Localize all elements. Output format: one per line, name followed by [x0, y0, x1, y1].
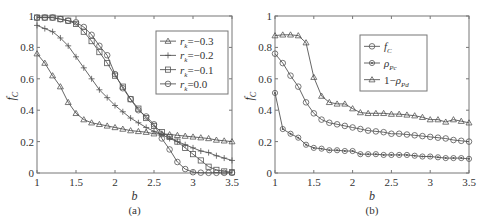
y-tick-label: 0.4 [258, 104, 272, 116]
plus-marker [81, 65, 87, 71]
dot-marker [390, 154, 392, 156]
dot-marker [344, 150, 346, 152]
x-tick-label: 3.5 [225, 176, 239, 188]
dot-marker [445, 157, 447, 159]
x-tick-label: 2 [112, 176, 118, 188]
dot-marker [398, 154, 400, 156]
x-tick-label: 3 [190, 176, 196, 188]
x-tick-label: 3.5 [462, 176, 476, 188]
y-tick-label: 0.8 [20, 41, 34, 53]
x-axis-label: b [132, 189, 138, 203]
dot-marker [290, 133, 292, 135]
y-tick-label: 0.6 [20, 73, 34, 85]
plus-marker [42, 26, 48, 32]
dot-marker [336, 149, 338, 151]
x-tick-label: 2 [350, 176, 356, 188]
plus-marker [229, 157, 235, 163]
y-tick-label: 1 [267, 10, 273, 22]
x-tick-label: 1.5 [69, 176, 83, 188]
y-tick-label: 0 [29, 167, 35, 179]
dot-marker [437, 156, 439, 158]
x-axis-label: b [369, 189, 375, 203]
dot-marker [383, 154, 385, 156]
dot-marker [328, 149, 330, 151]
chart-panel-b: 11.522.533.500.20.40.60.81bfC(b)fCρPc1−ρ… [242, 10, 476, 217]
plus-marker [34, 22, 40, 28]
y-tick-label: 0.2 [258, 136, 272, 148]
dot-marker [429, 156, 431, 158]
y-axis-label: fC [242, 91, 258, 100]
plus-marker [206, 150, 212, 156]
dot-marker [414, 155, 416, 157]
y-tick-label: 0.8 [258, 41, 272, 53]
x-tick-label: 1.5 [307, 176, 321, 188]
y-tick-label: 0.2 [20, 136, 34, 148]
y-tick-label: 0.4 [20, 104, 34, 116]
chart-panel-a: 11.522.533.500.20.40.60.81bfC(a)rk=−0.3r… [4, 10, 239, 217]
y-axis-label: fC [4, 91, 20, 100]
plus-marker [198, 148, 204, 154]
plus-marker [221, 155, 227, 161]
dot-marker [352, 150, 354, 152]
dot-marker [421, 156, 423, 158]
dot-marker [371, 62, 373, 64]
series-rho-pc [272, 90, 471, 161]
x-tick-label: 1 [34, 176, 40, 188]
legend: fCρPc1−ρPd [360, 35, 427, 91]
dot-marker [282, 128, 284, 130]
dot-marker [468, 158, 470, 160]
dot-marker [321, 148, 323, 150]
dot-marker [313, 147, 315, 149]
dot-marker [359, 153, 361, 155]
legend: rk=−0.3rk=−0.2rk=−0.1rk=0.0 [156, 31, 228, 94]
dot-marker [297, 137, 299, 139]
dot-marker [274, 92, 276, 94]
x-tick-label: 2.5 [385, 176, 399, 188]
y-tick-label: 0.6 [258, 73, 272, 85]
plus-marker [73, 54, 79, 60]
panel-caption: (a) [128, 204, 141, 217]
dot-marker [406, 154, 408, 156]
plus-marker [190, 145, 196, 151]
dot-marker [305, 144, 307, 146]
dot-marker [452, 157, 454, 159]
plus-marker [182, 142, 188, 148]
dot-marker [367, 153, 369, 155]
plus-marker [135, 120, 141, 126]
series-line [275, 93, 469, 159]
dot-marker [460, 157, 462, 159]
y-tick-label: 1 [29, 10, 35, 22]
plus-marker [89, 76, 95, 82]
x-tick-label: 1 [272, 176, 278, 188]
figure: 11.522.533.500.20.40.60.81bfC(a)rk=−0.3r… [0, 0, 489, 223]
x-tick-label: 2.5 [147, 176, 161, 188]
plus-marker [143, 124, 149, 130]
dot-marker [375, 153, 377, 155]
plus-marker [213, 153, 219, 159]
panel-caption: (b) [366, 204, 379, 217]
y-tick-label: 0 [267, 167, 273, 179]
x-tick-label: 3 [427, 176, 433, 188]
